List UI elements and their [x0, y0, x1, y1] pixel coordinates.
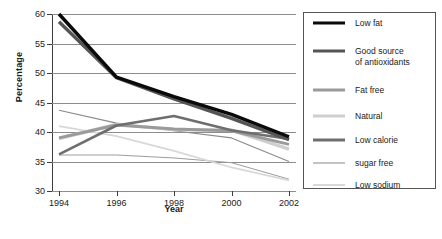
x-tick — [232, 191, 233, 196]
y-tick — [47, 191, 52, 192]
legend-label: sugar free — [355, 157, 393, 169]
y-tick-label: 35 — [35, 157, 45, 167]
y-tick-label: 30 — [35, 186, 45, 196]
legend-label: Natural — [355, 110, 382, 122]
legend-swatch-icon — [313, 134, 345, 146]
chart-legend: Low fatGood sourceof antioxidantsFat fre… — [303, 12, 436, 189]
y-axis-title: Percentage — [14, 32, 24, 122]
legend-swatch-icon — [313, 84, 345, 96]
legend-swatch-icon — [313, 45, 345, 57]
legend-item[interactable]: Good sourceof antioxidants — [304, 45, 437, 67]
legend-item[interactable]: Low sodium — [304, 179, 437, 191]
legend-label: Good sourceof antioxidants — [355, 45, 410, 67]
y-tick-label: 60 — [35, 9, 45, 19]
legend-label: Low fat — [355, 17, 382, 29]
legend-swatch-icon — [313, 17, 345, 29]
x-tick — [174, 191, 175, 196]
legend-label: Low sodium — [355, 179, 400, 191]
y-tick-label: 55 — [35, 39, 45, 49]
legend-swatch-icon — [313, 110, 345, 122]
series-line — [59, 155, 289, 179]
series-lines — [52, 14, 296, 191]
plot-area: 30354045505560 19941996199820002002 — [52, 14, 296, 191]
y-tick-label: 50 — [35, 68, 45, 78]
x-tick — [117, 191, 118, 196]
legend-item[interactable]: Low fat — [304, 17, 437, 29]
legend-item[interactable]: Low calorie — [304, 134, 437, 146]
legend-label: Low calorie — [355, 134, 398, 146]
x-tick — [289, 191, 290, 196]
legend-item[interactable]: sugar free — [304, 157, 437, 169]
y-tick-label: 40 — [35, 127, 45, 137]
chart-figure: Percentage 30354045505560 19941996199820… — [0, 0, 442, 239]
x-axis-title: Year — [52, 204, 296, 214]
legend-item[interactable]: Natural — [304, 110, 437, 122]
legend-swatch-icon — [313, 179, 345, 191]
x-tick — [59, 191, 60, 196]
legend-item[interactable]: Fat free — [304, 84, 437, 96]
legend-swatch-icon — [313, 157, 345, 169]
legend-label: Fat free — [355, 84, 384, 96]
y-tick-label: 45 — [35, 98, 45, 108]
